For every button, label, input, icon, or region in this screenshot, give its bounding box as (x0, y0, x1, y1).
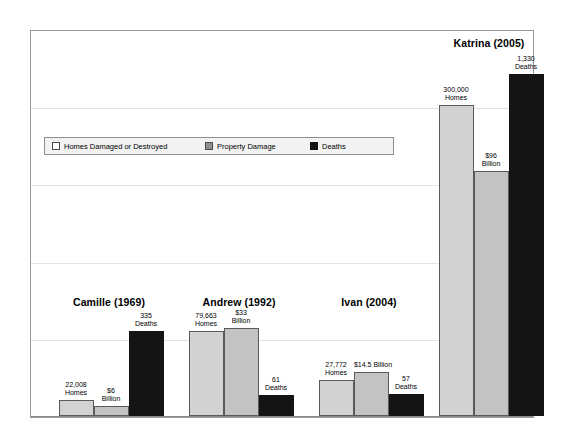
bar-ivan-deaths[interactable] (389, 394, 424, 416)
bar-ivan-homes[interactable] (319, 380, 354, 416)
bar-label-camille-homes: 22,008 Homes (65, 381, 87, 398)
bar-label-katrina-homes: 300,000 Homes (443, 86, 468, 103)
bar-unit-andrew-property: Billion (232, 317, 251, 324)
group-andrew: Andrew (1992) 79,663 Homes $33 Billion 6… (179, 30, 299, 416)
bar-unit-andrew-homes: Homes (195, 320, 217, 327)
bar-katrina-deaths[interactable] (509, 74, 544, 416)
bar-value-camille-property: $6 (107, 387, 115, 394)
legend-swatch-deaths-icon (310, 142, 318, 150)
bar-label-andrew-homes: 79,663 Homes (195, 312, 217, 329)
bar-label-katrina-deaths: 1,330 Deaths (515, 55, 537, 72)
bar-andrew-homes[interactable] (189, 331, 224, 416)
hurricane-comparison-chart: Camille (1969) 22,008 Homes $6 Billion 3… (0, 0, 562, 440)
bar-andrew-property[interactable] (224, 328, 259, 416)
bar-unit-camille-homes: Homes (65, 389, 87, 396)
bar-unit-ivan-homes: Homes (325, 369, 347, 376)
bar-unit-katrina-property: Billion (482, 160, 501, 167)
bar-unit-katrina-deaths: Deaths (515, 63, 537, 70)
bar-value-andrew-property: $33 (235, 309, 247, 316)
bar-label-andrew-deaths: 61 Deaths (265, 376, 287, 393)
bar-value-katrina-deaths: 1,330 (517, 55, 535, 62)
bar-value-camille-deaths: 335 (140, 312, 152, 319)
bar-unit-andrew-deaths: Deaths (265, 384, 287, 391)
bar-label-camille-deaths: 335 Deaths (135, 312, 157, 329)
bar-unit-katrina-homes: Homes (445, 94, 467, 101)
legend-label-property: Property Damage (217, 142, 276, 151)
bar-label-ivan-property: $14.5 Billion (354, 361, 392, 370)
bar-label-andrew-property: $33 Billion (232, 309, 251, 326)
legend-item-homes[interactable]: Homes Damaged or Destroyed (52, 138, 167, 154)
bar-unit-camille-deaths: Deaths (135, 320, 157, 327)
bar-katrina-homes[interactable] (439, 105, 474, 416)
chart-legend: Homes Damaged or Destroyed Property Dama… (44, 137, 394, 155)
category-axis-baseline (31, 416, 533, 417)
group-ivan: Ivan (2004) 27,772 Homes $14.5 Billion 5… (309, 30, 429, 416)
bar-unit-ivan-deaths: Deaths (395, 383, 417, 390)
bar-label-camille-property: $6 Billion (102, 387, 121, 404)
bar-camille-deaths[interactable] (129, 331, 164, 416)
bar-unit-camille-property: Billion (102, 395, 121, 402)
bar-value-camille-homes: 22,008 (65, 381, 86, 388)
legend-item-property[interactable]: Property Damage (205, 138, 276, 154)
bar-value-andrew-deaths: 61 (272, 376, 280, 383)
bar-camille-property[interactable] (94, 406, 129, 416)
bar-ivan-property[interactable] (354, 372, 389, 416)
bar-value-ivan-deaths: 57 (402, 375, 410, 382)
bar-value-ivan-property: $14.5 Billion (354, 361, 392, 368)
bar-value-katrina-homes: 300,000 (443, 86, 468, 93)
legend-label-deaths: Deaths (322, 142, 346, 151)
bar-value-andrew-homes: 79,663 (195, 312, 216, 319)
group-katrina: Katrina (2005) 300,000 Homes $96 Billion… (429, 30, 549, 416)
bar-camille-homes[interactable] (59, 400, 94, 416)
plot-area: Camille (1969) 22,008 Homes $6 Billion 3… (30, 30, 534, 418)
bar-katrina-property[interactable] (474, 171, 509, 416)
group-camille: Camille (1969) 22,008 Homes $6 Billion 3… (49, 30, 169, 416)
bar-andrew-deaths[interactable] (259, 395, 294, 416)
bar-label-ivan-deaths: 57 Deaths (395, 375, 417, 392)
legend-label-homes: Homes Damaged or Destroyed (64, 142, 167, 151)
legend-swatch-property-icon (205, 142, 213, 150)
bar-value-katrina-property: $96 (485, 152, 497, 159)
legend-swatch-homes-icon (52, 142, 60, 150)
bar-value-ivan-homes: 27,772 (325, 361, 346, 368)
bar-label-katrina-property: $96 Billion (482, 152, 501, 169)
bar-label-ivan-homes: 27,772 Homes (325, 361, 347, 378)
legend-item-deaths[interactable]: Deaths (310, 138, 346, 154)
